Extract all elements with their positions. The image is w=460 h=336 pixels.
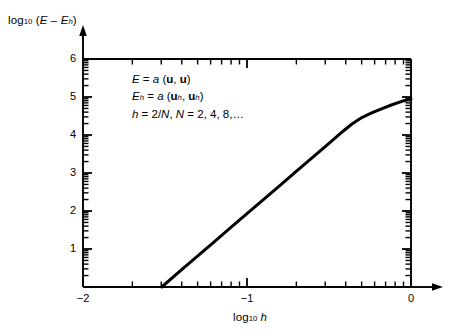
y-axis-arrow: [79, 25, 87, 59]
y-tick-label-3: 3: [56, 166, 76, 178]
y-tick-label-6: 6: [56, 52, 76, 64]
y-tick-label-2: 2: [56, 204, 76, 216]
annotation-block: E = a (u, u) Eh = a (uh, uh) h = 2/N, N …: [132, 71, 244, 123]
x-axis-arrow: [411, 283, 443, 291]
annot2-u1: u: [171, 90, 178, 102]
data-curve: [162, 99, 411, 287]
x-tick-label-0: 0: [396, 292, 426, 304]
y-axis-title-log: log: [8, 14, 24, 26]
y-axis-title-E: E: [40, 14, 48, 26]
x-tick-label-neg2: −2: [68, 292, 98, 304]
annotation-line-1: E = a (u, u): [132, 71, 244, 88]
y-tick-label-5: 5: [56, 90, 76, 102]
y-axis-title-minus: –: [48, 14, 61, 26]
annot2-eq: =: [144, 90, 157, 102]
x-tick-label-neg1: −1: [232, 292, 262, 304]
x-axis-title-base: 10: [249, 314, 258, 323]
annot1-close: ): [187, 73, 191, 85]
y-axis-title-base: 10: [24, 17, 33, 26]
annot2-close: ): [200, 90, 204, 102]
annot1-E: E: [132, 73, 140, 85]
x-axis-title-log: log: [233, 311, 249, 323]
annot1-u2: u: [180, 73, 187, 85]
annotation-line-2: Eh = a (uh, uh): [132, 88, 244, 106]
annot3-N2: N: [176, 108, 184, 120]
annot2-E: E: [132, 90, 140, 102]
annot2-open: (: [164, 90, 171, 102]
annot1-eq: =: [140, 73, 153, 85]
figure-container: 6 5 4 3 2 1 −2 −1 0 log10 (E – Eh) log10…: [0, 0, 460, 336]
y-tick-label-4: 4: [56, 128, 76, 140]
y-axis-title-paren-close: ): [73, 14, 77, 26]
annot3-eq2: = 2, 4, 8,…: [184, 108, 244, 120]
annot3-eq1: = 2/: [138, 108, 161, 120]
y-axis-title-paren-open: (: [33, 14, 40, 26]
y-tick-label-1: 1: [56, 242, 76, 254]
x-axis-title: log10h: [200, 311, 300, 323]
y-axis-title: log10 (E – Eh): [8, 14, 77, 26]
annotation-line-3: h = 2/N, N = 2, 4, 8,…: [132, 106, 244, 123]
x-axis-title-var: h: [261, 311, 268, 323]
